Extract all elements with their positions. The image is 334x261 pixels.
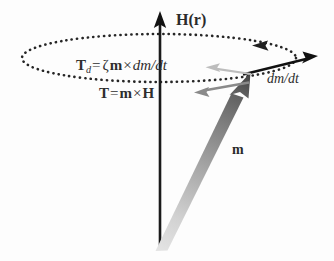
moment-label: m — [232, 143, 244, 157]
damping-torque-equals: = — [91, 57, 101, 73]
torque-equals: = — [109, 85, 119, 101]
torque-vector-m: m — [119, 85, 132, 101]
precession-diagram: H(r) Td=ζm×dm/dt T=m×H dm/dt m — [0, 0, 334, 261]
damping-arrow-head — [206, 63, 221, 72]
damping-vector-m: m — [110, 57, 123, 73]
torque-arrow-head — [194, 87, 210, 97]
damping-torque-arrow — [206, 63, 252, 74]
torque-equation: T=m×H — [99, 86, 154, 101]
damping-torque-equation: Td=ζm×dm/dt — [76, 58, 167, 75]
damping-torque-symbol: T — [76, 57, 86, 73]
field-axis-arrow — [154, 11, 166, 250]
torque-symbol: T — [99, 85, 109, 101]
rate-label: dm/dt — [267, 72, 299, 86]
damping-arrow-shaft — [215, 69, 251, 74]
rate-arrow-head — [302, 52, 318, 64]
field-label: H(r) — [176, 12, 206, 28]
damping-cross-operator: × — [122, 57, 132, 73]
moment-vector — [156, 73, 251, 252]
torque-cross-operator: × — [132, 85, 142, 101]
damping-coefficient-zeta: ζ — [102, 57, 110, 73]
diagram-canvas — [0, 0, 334, 261]
damping-vector-dmdt: dm/dt — [133, 57, 167, 73]
moment-shaft — [156, 94, 244, 252]
torque-vector-h: H — [142, 85, 154, 101]
